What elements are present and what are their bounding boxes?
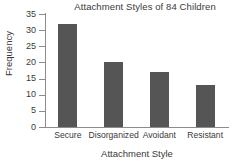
y-tick-label: 20 [18,58,36,67]
y-tick-label: 30 [18,26,36,35]
x-axis-label: Attachment Style [45,148,229,159]
y-tick-label: 10 [18,90,36,99]
y-tick-mark [39,127,45,128]
y-tick-label: 25 [18,42,36,51]
bar [150,72,169,127]
y-tick-label: 15 [18,74,36,83]
bar [196,85,215,127]
y-axis-label: Frequency [3,24,14,84]
bar-chart: Attachment Styles of 84 Children Frequen… [0,0,250,164]
x-tick-label: Resistant [165,130,245,140]
chart-title: Attachment Styles of 84 Children [45,1,245,12]
plot-area [45,14,228,127]
bar [104,62,123,127]
x-axis-line [45,127,229,128]
y-tick-label: 35 [18,10,36,19]
bar [58,24,77,127]
y-tick-label: 5 [18,106,36,115]
